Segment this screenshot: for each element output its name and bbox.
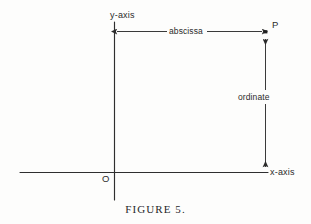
abscissa-label: abscissa <box>167 26 205 36</box>
point-p-marker <box>264 30 267 33</box>
origin-label: O <box>102 173 109 184</box>
figure-caption: FIGURE 5. <box>0 203 311 215</box>
coordinate-diagram-canvas <box>0 0 311 224</box>
point-p-label: P <box>272 19 278 30</box>
y-axis-label: y-axis <box>110 10 135 20</box>
ordinate-label: ordinate <box>236 91 272 103</box>
x-axis-label: x-axis <box>270 167 295 177</box>
figure-5-diagram: y-axis abscissa ordinate P x-axis O FIGU… <box>0 0 311 224</box>
